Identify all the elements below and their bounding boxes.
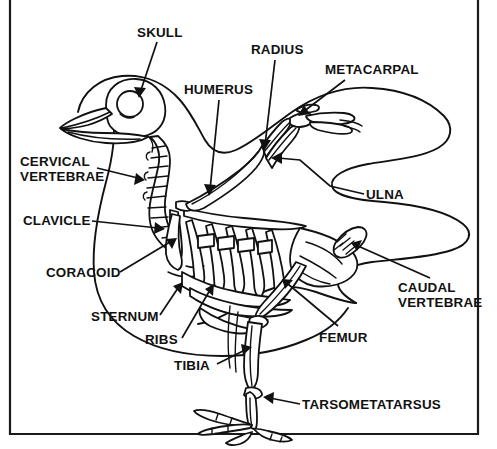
label-humerus: HUMERUS xyxy=(184,82,253,97)
label-ribs: RIBS xyxy=(145,332,178,347)
label-skull: SKULL xyxy=(137,25,183,40)
label-metacarpal: METACARPAL xyxy=(325,62,419,77)
label-tarsometatarsus: TARSOMETATARSUS xyxy=(302,397,441,412)
label-caudal-vertebrae-line1: CAUDAL xyxy=(398,280,456,295)
label-ulna: ULNA xyxy=(366,187,404,202)
label-tibia: TIBIA xyxy=(174,358,210,373)
label-clavicle: CLAVICLE xyxy=(23,213,91,228)
label-cervical-vertebrae-line1: CERVICAL xyxy=(20,154,90,169)
label-sternum: STERNUM xyxy=(91,309,159,324)
label-femur: FEMUR xyxy=(319,330,368,345)
label-cervical-vertebrae-line2: VERTEBRAE xyxy=(20,169,104,184)
label-radius: RADIUS xyxy=(251,42,304,57)
bird-skeleton-illustration: SKULL HUMERUS RADIUS METACARPAL ULNA CER… xyxy=(0,0,497,449)
label-coracoid: CORACOID xyxy=(46,265,121,280)
label-caudal-vertebrae-line2: VERTEBRAE xyxy=(398,295,482,310)
bird-skeleton-diagram: SKULL HUMERUS RADIUS METACARPAL ULNA CER… xyxy=(0,0,497,449)
